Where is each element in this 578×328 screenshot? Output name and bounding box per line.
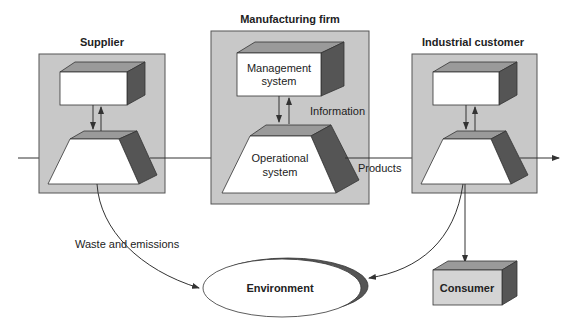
- products-label: Products: [358, 162, 402, 174]
- environment-label: Environment: [246, 282, 314, 294]
- manufacturer-panel: [211, 31, 369, 204]
- supplier-management-box: [60, 62, 145, 105]
- consumer-label: Consumer: [440, 282, 495, 294]
- operational-label-line1: Operational: [252, 152, 309, 164]
- customer-management-box: [433, 62, 517, 105]
- supplier-title: Supplier: [80, 36, 125, 48]
- waste-label: Waste and emissions: [75, 238, 180, 250]
- management-label-line2: system: [262, 75, 297, 87]
- operational-label-line2: system: [263, 166, 298, 178]
- information-label: Information: [310, 105, 365, 117]
- supplier-waste-curve: [97, 184, 199, 288]
- customer-title: Industrial customer: [422, 36, 525, 48]
- manufacturer-title: Manufacturing firm: [240, 13, 340, 25]
- supplier-panel: [39, 54, 165, 193]
- customer-panel: [412, 54, 537, 193]
- diagram-canvas: Supplier Manufacturing firm Management s…: [0, 0, 578, 328]
- management-label-line1: Management: [247, 62, 311, 74]
